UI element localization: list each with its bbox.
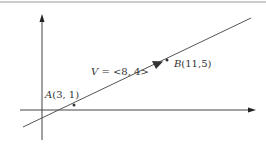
y-axis-arrow-icon bbox=[40, 14, 45, 22]
x-axis-arrow-icon bbox=[248, 108, 256, 113]
point-b-label: B(11,5) bbox=[173, 58, 212, 69]
point-b bbox=[166, 59, 169, 62]
point-a-label: A(3, 1) bbox=[44, 89, 79, 100]
point-a bbox=[73, 104, 76, 107]
vector-label: V = <8, 4> bbox=[91, 66, 149, 77]
diagram-canvas: A(3, 1) V = <8, 4> B(11,5) bbox=[0, 0, 266, 146]
